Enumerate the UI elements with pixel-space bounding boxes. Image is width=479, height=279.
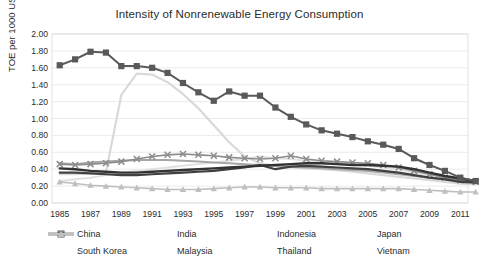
y-tick-label: 0.60: [31, 147, 48, 157]
legend-label: Indonesia: [277, 229, 316, 239]
data-point-marker: [103, 49, 109, 55]
legend-label: Japan: [377, 229, 402, 239]
data-point-marker: [57, 62, 63, 68]
y-tick-label: 1.40: [31, 80, 48, 90]
data-point-marker: [288, 114, 294, 120]
legend-swatch-icon: [248, 228, 274, 240]
data-point-marker: [226, 88, 232, 94]
y-tick-label: 1.20: [31, 97, 48, 107]
data-point-marker: [396, 146, 402, 152]
legend-item-indonesia[interactable]: Indonesia: [248, 228, 348, 240]
y-tick-label: 1.80: [31, 46, 48, 56]
data-point-marker: [211, 98, 217, 104]
series-vietnam: [57, 179, 479, 195]
data-point-marker: [334, 131, 340, 137]
chart-container: Intensity of Nonrenewable Energy Consump…: [0, 0, 479, 279]
x-tick-label: 1997: [235, 209, 254, 219]
data-point-marker: [241, 93, 247, 99]
x-tick-label: 2003: [327, 209, 346, 219]
data-point-marker: [426, 162, 432, 168]
legend-row-1: ChinaIndiaIndonesiaJapan: [48, 228, 448, 240]
legend-row-2: South KoreaMalaysiaThailandVietnam: [48, 245, 448, 257]
data-point-marker: [72, 56, 78, 62]
y-tick-label: 1.00: [31, 114, 48, 124]
series-line: [60, 165, 476, 183]
y-tick-label: 1.60: [31, 63, 48, 73]
data-point-marker: [118, 63, 124, 69]
legend-label: Thailand: [277, 246, 312, 256]
legend-swatch-icon: [248, 245, 274, 257]
data-point-marker: [272, 104, 278, 110]
x-tick-label: 2009: [420, 209, 439, 219]
data-point-marker: [442, 168, 448, 174]
x-tick-label: 1991: [143, 209, 162, 219]
x-tick-label: 1985: [50, 209, 69, 219]
y-tick-label: 0.20: [31, 181, 48, 191]
x-tick-label: 1989: [112, 209, 131, 219]
x-tick-label: 1999: [266, 209, 285, 219]
legend-item-japan[interactable]: Japan: [348, 228, 448, 240]
x-tick-label: 2005: [358, 209, 377, 219]
y-tick-label: 0.40: [31, 164, 48, 174]
y-tick-label: 0.80: [31, 130, 48, 140]
legend-label: India: [177, 229, 197, 239]
legend-item-malaysia[interactable]: Malaysia: [148, 245, 248, 257]
legend-label: Vietnam: [377, 246, 410, 256]
x-tick-label: 1987: [81, 209, 100, 219]
y-tick-label: 2.00: [31, 29, 48, 39]
x-tick-label: 2001: [297, 209, 316, 219]
legend-item-india[interactable]: India: [148, 228, 248, 240]
legend-swatch-icon: [148, 245, 174, 257]
data-point-marker: [473, 178, 479, 184]
legend-swatch-icon: [48, 245, 74, 257]
series-south-korea: [60, 165, 476, 183]
legend-item-vietnam[interactable]: Vietnam: [348, 245, 448, 257]
y-tick-label: 0.00: [31, 198, 48, 208]
legend-swatch-icon: [348, 228, 374, 240]
legend-item-thailand[interactable]: Thailand: [248, 245, 348, 257]
legend-item-south-korea[interactable]: South Korea: [48, 245, 148, 257]
x-tick-label: 1995: [204, 209, 223, 219]
data-point-marker: [303, 121, 309, 127]
data-point-marker: [164, 70, 170, 76]
legend-label: China: [77, 229, 101, 239]
data-point-marker: [257, 93, 263, 99]
data-point-marker: [349, 134, 355, 140]
legend-swatch-icon: [148, 228, 174, 240]
legend-swatch-icon: [348, 245, 374, 257]
data-point-marker: [195, 89, 201, 95]
data-point-marker: [411, 155, 417, 161]
data-point-marker: [319, 127, 325, 133]
x-tick-label: 1993: [173, 209, 192, 219]
x-tick-label: 2011: [451, 209, 470, 219]
data-point-marker: [457, 175, 463, 181]
data-point-marker: [87, 49, 93, 55]
legend-label: South Korea: [77, 246, 127, 256]
data-point-marker: [380, 142, 386, 148]
data-point-marker: [180, 80, 186, 86]
data-point-marker: [365, 138, 371, 144]
chart-legend: ChinaIndiaIndonesiaJapan South KoreaMala…: [48, 228, 448, 257]
legend-label: Malaysia: [177, 246, 213, 256]
data-point-marker: [149, 65, 155, 71]
x-tick-label: 2007: [389, 209, 408, 219]
data-point-marker: [134, 63, 140, 69]
